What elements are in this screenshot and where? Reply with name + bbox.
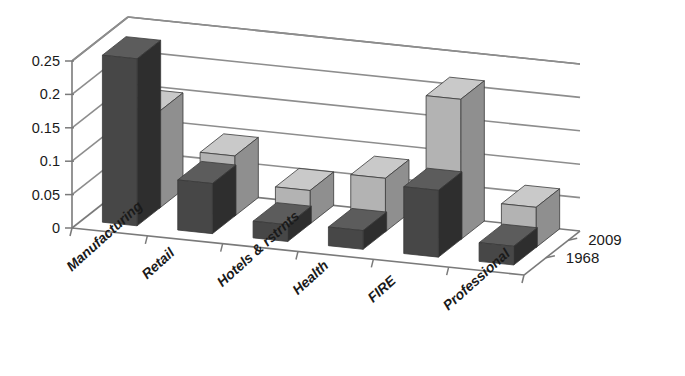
chart-container: 0.250.20.150.10.050 ManufacturingRetailH… [0,0,685,376]
y-tick-label-0: 0.25 [32,53,60,69]
x-tick-6 [522,275,524,283]
x-tick-0 [70,228,72,236]
bar-1968-health-front-face [328,227,363,249]
bar-1968-manufacturing-side-face [137,40,161,226]
y-tick-label-3: 0.1 [40,153,60,169]
y-tick-label-5: 0 [52,220,60,236]
x-tick-5 [447,267,449,275]
category-label-5: Professional [440,244,514,313]
bar-1968-retail-front-face [178,180,213,234]
category-label-1: Retail [138,244,178,282]
x-tick-2 [221,244,223,252]
y-tick-label-1: 0.2 [40,86,60,102]
category-label-4: FIRE [364,272,399,306]
bar-2009-fire-side-face [461,81,485,240]
bar-1968-fire-front-face [404,187,439,257]
x-tick-3 [296,252,298,260]
series-label-1968: 1968 [566,249,599,266]
series-label-2009: 2009 [588,231,621,248]
x-tick-1 [145,236,147,244]
y-tick-labels: 0.250.20.150.10.050 [32,53,60,236]
y-tick-label-4: 0.05 [32,187,60,203]
y-tick-label-2: 0.15 [32,120,60,136]
x-tick-4 [371,259,373,267]
bar-chart-3d: 0.250.20.150.10.050 ManufacturingRetailH… [0,0,685,376]
category-label-3: Health [289,257,332,298]
y-axis [65,61,74,228]
